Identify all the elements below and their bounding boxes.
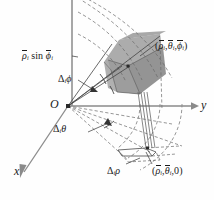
leader-point-lower xyxy=(146,152,152,164)
origin-label: O xyxy=(50,98,59,110)
y-axis-label: y xyxy=(201,99,206,111)
ray-base-mid xyxy=(68,106,150,152)
leader-delta-theta xyxy=(88,124,106,132)
leader-delta-rho xyxy=(126,158,140,164)
origin-marker xyxy=(66,104,70,108)
ray-to-block-upper xyxy=(68,44,112,106)
point-marker-lower xyxy=(146,147,149,150)
x-axis-label: x xyxy=(14,165,19,177)
leader-rho-sin-phi xyxy=(72,56,78,57)
spherical-volume-element-figure: O x y ρi sin ϕi Δiϕ Δiθ Δiρ (ρi,θi,ϕi) (… xyxy=(0,0,214,200)
point-upper-label: (ρi,θi,ϕi) xyxy=(155,41,188,52)
arc-base-inner xyxy=(118,104,140,148)
ray-base-right xyxy=(68,106,182,146)
delta-rho-label: Δiρ xyxy=(107,166,120,177)
x-axis xyxy=(20,106,69,178)
point-lower-label: (ρi,θi,0) xyxy=(152,166,183,177)
arc-base-outer xyxy=(140,104,182,170)
rho-sin-phi-label: ρi sin ϕi xyxy=(22,51,53,62)
delta-theta-label: Δiθ xyxy=(53,124,66,135)
projection-drop-lines xyxy=(138,92,155,148)
patch-edge-1 xyxy=(118,148,146,150)
origin-dashed-rays xyxy=(68,106,182,160)
point-marker-upper xyxy=(127,65,130,68)
patch-edge-5 xyxy=(152,152,156,156)
delta-phi-label: Δiϕ xyxy=(58,74,72,85)
y-axis xyxy=(68,102,199,110)
